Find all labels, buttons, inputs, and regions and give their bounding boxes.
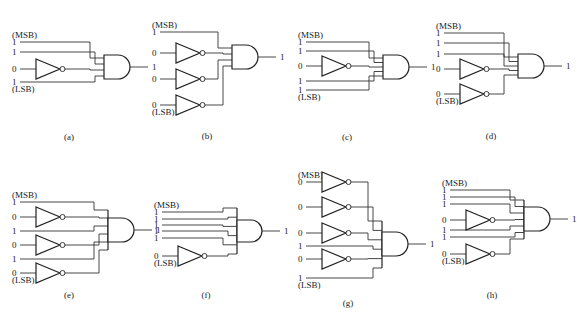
input-value-0: 1 bbox=[12, 37, 17, 47]
input-value-0: 1 bbox=[152, 27, 157, 37]
input-value-2: 1 bbox=[442, 199, 447, 209]
input-value-5: 1 bbox=[442, 232, 447, 242]
input-value-0: 1 bbox=[12, 197, 17, 207]
and-gate-icon bbox=[383, 55, 409, 79]
inversion-bubble-icon bbox=[202, 254, 207, 259]
caption-c: (c) bbox=[342, 132, 352, 142]
input-value-2: 0 bbox=[298, 228, 303, 238]
and-gate-icon bbox=[232, 45, 258, 69]
caption-e: (e) bbox=[64, 290, 74, 300]
caption-h: (h) bbox=[487, 290, 498, 300]
inversion-bubble-icon bbox=[60, 67, 65, 72]
inversion-bubble-icon bbox=[60, 215, 65, 220]
and-gate-icon bbox=[518, 54, 544, 78]
input-value-4: 1 bbox=[12, 254, 17, 264]
inverter-icon bbox=[36, 207, 60, 227]
input-value-3: 0 bbox=[152, 100, 157, 110]
input-value-5: 1 bbox=[298, 273, 303, 283]
caption-a: (a) bbox=[64, 132, 74, 142]
and-gate-icon bbox=[382, 232, 408, 256]
inverter-icon bbox=[178, 246, 202, 266]
inverter-icon bbox=[460, 84, 484, 104]
input-value-1: 1 bbox=[298, 46, 303, 56]
inverter-icon bbox=[322, 223, 346, 243]
inversion-bubble-icon bbox=[346, 64, 351, 69]
output-value: 1 bbox=[280, 52, 285, 62]
output-value: 1 bbox=[572, 214, 577, 224]
and-gate-icon bbox=[524, 207, 550, 231]
output-value: 1 bbox=[430, 239, 435, 249]
and-gate-icon bbox=[104, 55, 130, 79]
input-value-2: 0 bbox=[298, 61, 303, 71]
and-gate-icon bbox=[237, 220, 262, 242]
inversion-bubble-icon bbox=[200, 77, 205, 82]
inverter-icon bbox=[466, 210, 490, 230]
input-value-1: 1 bbox=[12, 47, 17, 57]
input-value-4: 0 bbox=[436, 89, 441, 99]
inversion-bubble-icon bbox=[200, 51, 205, 56]
inversion-bubble-icon bbox=[484, 92, 489, 97]
inversion-bubble-icon bbox=[346, 180, 351, 185]
circuit-g: (MSB)(LSB)0001011 bbox=[298, 170, 435, 290]
caption-f: (f) bbox=[202, 290, 211, 300]
caption-b: (b) bbox=[202, 131, 213, 141]
inverter-icon bbox=[322, 249, 346, 269]
input-value-1: 0 bbox=[12, 212, 17, 222]
inversion-bubble-icon bbox=[490, 218, 495, 223]
input-value-3: 1 bbox=[12, 77, 17, 87]
inversion-bubble-icon bbox=[200, 103, 205, 108]
caption-g: (g) bbox=[343, 298, 354, 308]
input-value-3: 0 bbox=[442, 215, 447, 225]
input-value-6: 0 bbox=[442, 249, 447, 259]
output-value: 1 bbox=[566, 61, 571, 71]
inverter-icon bbox=[176, 95, 200, 115]
input-value-3: 0 bbox=[436, 64, 441, 74]
input-value-2: 1 bbox=[12, 226, 17, 236]
circuit-h: (MSB)(LSB)11101101 bbox=[442, 178, 577, 266]
input-value-3: 0 bbox=[12, 240, 17, 250]
circuit-d: (MSB)(LSB)111001 bbox=[436, 21, 571, 106]
circuit-c: (MSB)(LSB)110111 bbox=[298, 30, 436, 102]
input-value-3: 1 bbox=[298, 241, 303, 251]
input-value-1: 0 bbox=[298, 202, 303, 212]
input-value-2: 0 bbox=[152, 74, 157, 84]
input-value-2: 1 bbox=[436, 49, 441, 59]
inversion-bubble-icon bbox=[484, 67, 489, 72]
inversion-bubble-icon bbox=[60, 243, 65, 248]
output-value: 1 bbox=[152, 62, 157, 72]
input-value-4: 1 bbox=[154, 233, 159, 243]
inversion-bubble-icon bbox=[346, 231, 351, 236]
circuit-e: (MSB)(LSB)1010101 bbox=[12, 190, 161, 285]
inverter-icon bbox=[460, 59, 484, 79]
inverter-icon bbox=[322, 197, 346, 217]
circuit-f: (MSB)(LSB)1111101 bbox=[154, 200, 289, 268]
circuits-root: (MSB)(LSB)11011(a)(MSB)(LSB)10001(b)(MSB… bbox=[12, 20, 577, 308]
input-value-1: 1 bbox=[436, 38, 441, 48]
inversion-bubble-icon bbox=[346, 205, 351, 210]
inverter-icon bbox=[322, 56, 346, 76]
caption-d: (d) bbox=[486, 131, 497, 141]
inversion-bubble-icon bbox=[60, 271, 65, 276]
input-value-1: 0 bbox=[152, 48, 157, 58]
inversion-bubble-icon bbox=[490, 252, 495, 257]
decoder-figure: (MSB)(LSB)11011(a)(MSB)(LSB)10001(b)(MSB… bbox=[0, 0, 577, 318]
and-gate-icon bbox=[108, 218, 134, 242]
output-value: 1 bbox=[431, 62, 436, 72]
inverter-icon bbox=[36, 235, 60, 255]
input-value-0: 0 bbox=[298, 177, 303, 187]
inverter-icon bbox=[176, 43, 200, 63]
output-value: 1 bbox=[284, 226, 289, 236]
inversion-bubble-icon bbox=[346, 257, 351, 262]
input-value-5: 0 bbox=[154, 251, 159, 261]
input-value-4: 0 bbox=[298, 254, 303, 264]
circuit-a: (MSB)(LSB)11011 bbox=[12, 30, 157, 94]
inverter-icon bbox=[176, 69, 200, 89]
inverter-icon bbox=[322, 172, 346, 192]
inverter-icon bbox=[36, 263, 60, 283]
input-value-4: 1 bbox=[298, 85, 303, 95]
circuit-b: (MSB)(LSB)10001 bbox=[152, 20, 285, 117]
input-value-5: 0 bbox=[12, 268, 17, 278]
input-value-2: 0 bbox=[12, 64, 17, 74]
inverter-icon bbox=[36, 59, 60, 79]
input-value-0: 1 bbox=[436, 28, 441, 38]
